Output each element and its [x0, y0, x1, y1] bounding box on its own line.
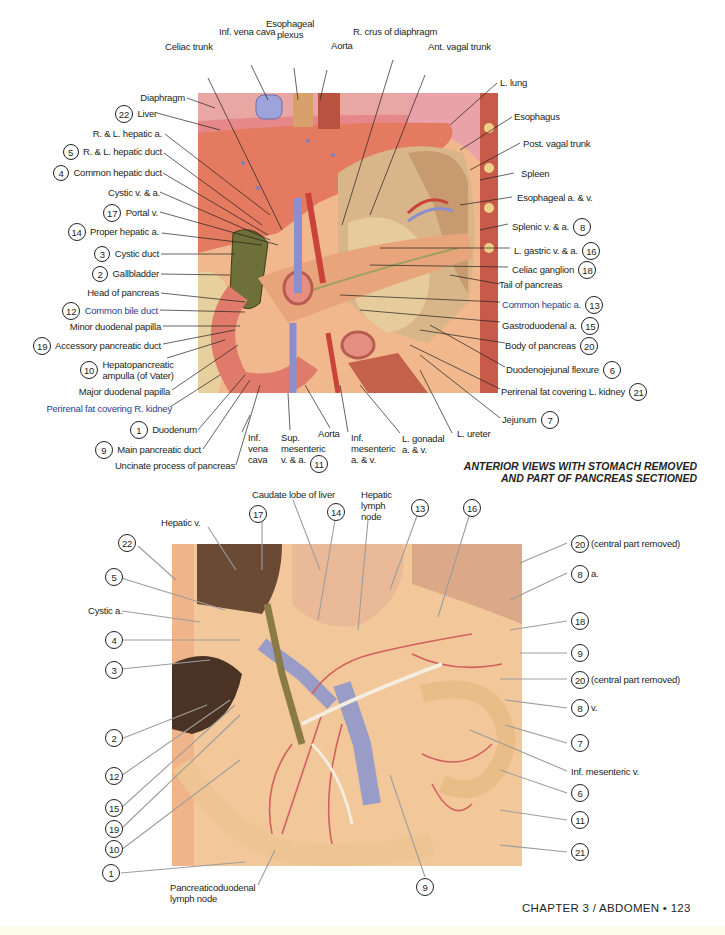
callout-number: 21 [629, 383, 647, 401]
label-proper-hepatic-a: 14 Proper hepatic a. [66, 223, 159, 241]
callout-14-bottom: 14 [325, 503, 347, 521]
label-r-crus-diaphragm: R. crus of diaphragm [353, 26, 437, 37]
callout-number: 3 [94, 246, 110, 262]
top-illustration [198, 93, 498, 393]
callout-number: 17 [103, 204, 121, 222]
label-cystic-v-a: Cystic v. & a. [108, 187, 160, 198]
callout-7-bottom: 7 [569, 734, 591, 752]
label-pancreaticoduodenal-lymph-node: Pancreaticoduodenal lymph node [170, 882, 255, 904]
label-hepatic-v: Hepatic v. [161, 517, 201, 528]
label-tail-of-pancreas: Tail of pancreas [499, 279, 562, 290]
label-duodenojejunal-flexure: Duodenojejunal flexure 6 [506, 361, 623, 379]
label-esophageal-a-v: Esophageal a. & v. [517, 192, 592, 203]
callout-21-bottom: 21 [569, 843, 591, 861]
callout-number: 10 [80, 361, 98, 379]
label-gallbladder: 2 Gallbladder [90, 266, 159, 282]
page-bottom-strip [0, 926, 725, 935]
callout-13-bottom: 13 [409, 499, 431, 517]
label-aorta-bottom: Aorta [318, 428, 340, 439]
label-uncinate-process: Uncinate process of pancreas [115, 460, 235, 471]
callout-17-bottom: 17 [247, 505, 269, 523]
label-l-ureter: L. ureter [457, 428, 491, 439]
label-esophageal-plexus: Esophageal plexus [266, 18, 314, 40]
label-celiac-ganglion: Celiac ganglion 18 [512, 261, 598, 279]
label-gastroduodenal-a: Gastroduodenal a. 15 [502, 317, 601, 335]
label-splenic-v-a: Splenic v. & a. 8 [512, 218, 593, 236]
label-head-of-pancreas: Head of pancreas [87, 287, 159, 298]
label-l-lung: L. lung [500, 77, 527, 88]
label-post-vagal-trunk: Post. vagal trunk [523, 138, 590, 149]
callout-19-bottom: 19 [103, 820, 125, 838]
label-ant-vagal-trunk: Ant. vagal trunk [428, 41, 491, 52]
callout-number: 16 [582, 242, 600, 260]
callout-number: 20 [580, 337, 598, 355]
label-esophagus: Esophagus [514, 111, 560, 122]
label-l-gastric-v-a: L. gastric v. & a. 16 [514, 242, 602, 260]
bottom-specimen-photo [172, 544, 522, 866]
callout-number: 4 [53, 165, 69, 181]
label-liver: 22 Liver [113, 105, 157, 123]
label-r-l-hepatic-duct: 5 R. & L. hepatic duct [61, 144, 162, 160]
callout-2-bottom: 2 [103, 729, 125, 747]
callout-number: 2 [92, 266, 108, 282]
callout-number: 6 [603, 361, 621, 379]
label-accessory-pancreatic-duct: 19 Accessory pancreatic duct [31, 337, 161, 355]
label-inf-mesenteric-v: Inf. mesenteric v. [571, 766, 639, 777]
callout-number: 9 [95, 441, 113, 459]
label-portal-v: 17 Portal v. [101, 204, 158, 222]
callout-number: 5 [63, 144, 79, 160]
callout-18-bottom: 18 [569, 612, 591, 630]
illustration-anatomy-top [198, 93, 498, 393]
label-cystic-duct: 3 Cystic duct [92, 246, 159, 262]
callout-3-bottom: 3 [103, 661, 125, 679]
label-caudate-lobe: Caudate lobe of liver [252, 489, 335, 500]
label-common-hepatic-a: Common hepatic a. 13 [502, 296, 605, 314]
callout-22-bottom: 22 [116, 534, 138, 552]
label-inf-mesenteric-a-v: Inf. mesenteric a. & v. [351, 432, 395, 465]
label-major-duodenal-papilla: Major duodenal papilla [79, 386, 170, 397]
callout-5-bottom: 5 [103, 568, 125, 586]
callout-16-bottom: 16 [461, 499, 483, 517]
callout-number: 13 [585, 296, 603, 314]
label-common-hepatic-duct: 4 Common hepatic duct [51, 165, 162, 181]
label-8-a: 8a. [569, 565, 599, 583]
callout-number: 15 [581, 317, 599, 335]
label-hepatopancreatic-ampulla: 10 Hepatopancreatic ampulla (of Vater) [78, 359, 174, 381]
label-spleen: Spleen [521, 168, 549, 179]
callout-number: 1 [130, 421, 148, 439]
label-20-central-part-removed-a: 20(central part removed) [569, 535, 680, 553]
callout-number: 8 [573, 218, 591, 236]
label-jejunum: Jejunum 7 [502, 411, 561, 429]
label-perirenal-fat-r-kidney: Perirenal fat covering R. kidney [46, 403, 172, 414]
label-perirenal-fat-l-kidney: Perirenal fat covering L. kidney 21 [501, 383, 649, 401]
callout-6-bottom: 6 [569, 784, 591, 802]
callout-number: 22 [115, 105, 133, 123]
callout-15-bottom: 15 [103, 799, 125, 817]
label-l-gonadal-a-v: L. gonadal a. & v. [402, 433, 444, 455]
page-footer: CHAPTER 3 / ABDOMEN • 123 [522, 902, 691, 914]
callout-9-right: 9 [569, 644, 591, 662]
label-hepatic-lymph-node: Hepatic lymph node [361, 489, 392, 522]
callout-number: 11 [310, 455, 328, 473]
callout-number: 19 [33, 337, 51, 355]
callout-number: 12 [62, 302, 80, 320]
label-minor-duodenal-papilla: Minor duodenal papilla [70, 321, 161, 332]
label-r-l-hepatic-a: R. & L. hepatic a. [93, 128, 162, 139]
callout-1-bottom: 1 [100, 864, 122, 882]
callout-10-bottom: 10 [103, 840, 125, 858]
label-body-of-pancreas: Body of pancreas 20 [505, 337, 600, 355]
callout-4-bottom: 4 [103, 631, 125, 649]
label-duodenum: 1 Duodenum [128, 421, 197, 439]
label-common-bile-duct: 12 Common bile duct [60, 302, 158, 320]
label-celiac-trunk: Celiac trunk [165, 41, 213, 52]
label-8-v: 8v. [569, 699, 597, 717]
illustration-anatomy-bottom [172, 544, 522, 866]
callout-11-bottom: 11 [569, 811, 591, 829]
label-main-pancreatic-duct: 9 Main pancreatic duct [93, 441, 201, 459]
label-diaphragm: Diaphragm [140, 92, 185, 103]
label-aorta-top: Aorta [331, 40, 353, 51]
callout-9-bottom: 9 [414, 878, 436, 896]
callout-12-bottom: 12 [103, 767, 125, 785]
callout-number: 7 [541, 411, 559, 429]
label-cystic-a: Cystic a. [88, 605, 123, 616]
